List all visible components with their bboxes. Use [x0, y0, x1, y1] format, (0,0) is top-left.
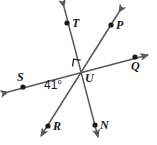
geometry-figure: T P S Q U R N 41°	[0, 0, 157, 145]
point-label-r: R	[53, 120, 61, 132]
point-dot-p	[108, 22, 113, 27]
angle-measure-label: 41°	[44, 79, 62, 91]
point-dot-s	[20, 84, 25, 89]
point-dot-n	[92, 122, 97, 127]
point-label-p: P	[116, 19, 123, 31]
point-label-n: N	[100, 119, 109, 131]
point-label-t: T	[72, 17, 79, 29]
point-dot-t	[64, 20, 69, 25]
point-label-u: U	[85, 72, 94, 84]
point-dot-r	[45, 123, 50, 128]
point-label-s: S	[17, 71, 24, 83]
point-label-q: Q	[131, 60, 140, 72]
